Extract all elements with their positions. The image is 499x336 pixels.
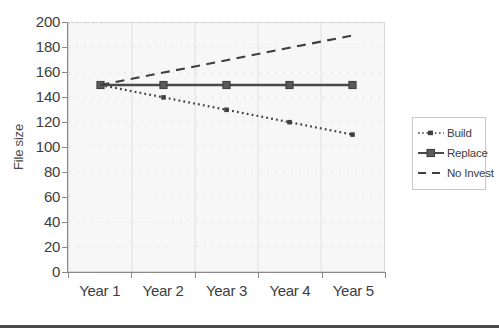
legend-label-build: Build xyxy=(445,127,472,139)
y-axis-tick-label: 60 xyxy=(20,189,60,204)
data-point-marker xyxy=(224,108,229,113)
line-chart-figure: 200180160140120100806040200 File size Ye… xyxy=(0,0,499,336)
data-point-marker xyxy=(223,81,230,88)
legend-label-no-invest: No Invest xyxy=(445,167,494,179)
dashed-line-sample-icon xyxy=(417,166,445,180)
y-axis-tick-label: 0 xyxy=(20,264,60,279)
series-line-no-invest xyxy=(101,35,353,85)
solid-line-sample-icon xyxy=(417,146,445,160)
y-axis-tick-label: 120 xyxy=(20,114,60,129)
y-axis-tick-mark xyxy=(62,172,67,173)
y-axis-tick-label: 160 xyxy=(20,64,60,79)
y-axis-tick-label: 180 xyxy=(20,39,60,54)
y-axis-tick-mark xyxy=(62,222,67,223)
bottom-divider xyxy=(0,325,499,328)
plot-area xyxy=(68,22,385,272)
plot-canvas xyxy=(69,23,384,271)
y-axis-tick-label: 140 xyxy=(20,89,60,104)
y-axis-tick-mark xyxy=(62,197,67,198)
y-axis-tick-mark xyxy=(62,272,67,273)
data-point-marker xyxy=(350,132,355,137)
y-axis-tick-mark xyxy=(62,147,67,148)
data-point-marker xyxy=(160,81,167,88)
x-axis-tick-mark xyxy=(322,273,323,278)
x-axis-tick-mark xyxy=(258,273,259,278)
y-axis-tick-mark xyxy=(62,122,67,123)
y-axis-title: File size xyxy=(12,97,26,197)
legend-item-build[interactable]: Build xyxy=(417,123,482,143)
legend-label-replace: Replace xyxy=(445,147,488,159)
y-axis-tick-label: 100 xyxy=(20,139,60,154)
data-point-marker xyxy=(349,81,356,88)
x-axis-tick-mark xyxy=(195,273,196,278)
dotted-line-sample-icon xyxy=(417,126,445,140)
x-axis-tick-mark xyxy=(131,273,132,278)
y-axis-tick-label: 80 xyxy=(20,164,60,179)
y-axis-tick-mark xyxy=(62,72,67,73)
x-axis-tick-mark xyxy=(68,273,69,278)
y-axis-tick-label: 20 xyxy=(20,239,60,254)
x-axis-tick-label: Year 5 xyxy=(308,283,398,299)
legend-item-replace[interactable]: Replace xyxy=(417,143,482,163)
y-axis-tick-mark xyxy=(62,22,67,23)
x-axis-tick-mark xyxy=(385,273,386,278)
data-point-marker xyxy=(286,81,293,88)
y-axis-tick-label: 200 xyxy=(20,14,60,29)
y-axis-tick-mark xyxy=(62,47,67,48)
chart-legend: Build Replace No Invest xyxy=(412,117,486,190)
y-axis-tick-mark xyxy=(62,247,67,248)
data-point-marker xyxy=(161,95,166,100)
legend-item-no-invest[interactable]: No Invest xyxy=(417,163,482,183)
data-point-marker xyxy=(287,120,292,125)
y-axis-tick-label: 40 xyxy=(20,214,60,229)
y-axis-tick-mark xyxy=(62,97,67,98)
x-axis-line xyxy=(67,272,386,273)
